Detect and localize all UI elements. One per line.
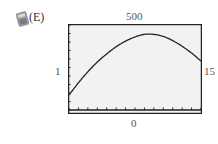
choice-label: (E) (29, 10, 44, 25)
graph-window (68, 24, 202, 114)
xmin-label: 1 (55, 65, 61, 77)
calculator-icon (16, 11, 29, 27)
xmax-label: 15 (204, 65, 215, 77)
ymin-label: 0 (131, 117, 137, 129)
ymax-label: 500 (126, 10, 143, 22)
